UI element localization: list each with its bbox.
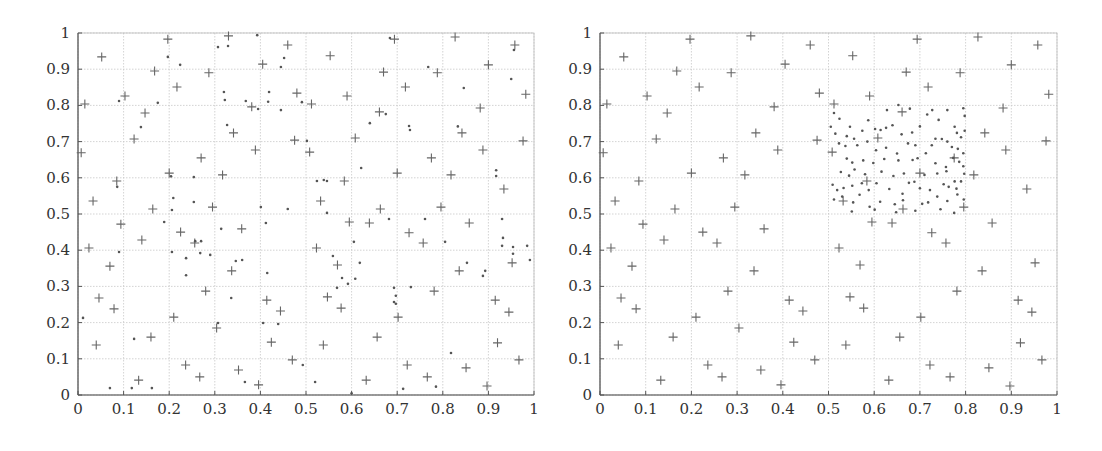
- plus-marker-icon: [430, 287, 439, 296]
- dot-marker-icon: [171, 251, 174, 254]
- y-tick-label: 0.4: [568, 241, 592, 259]
- plus-marker-icon: [988, 219, 997, 228]
- dot-marker-icon: [936, 195, 939, 198]
- dot-marker-icon: [909, 107, 912, 110]
- dot-marker-icon: [241, 259, 244, 262]
- plus-marker-icon: [751, 128, 760, 137]
- dot-marker-icon: [945, 166, 948, 169]
- dot-marker-icon: [934, 162, 937, 165]
- dot-marker-icon: [853, 137, 856, 140]
- dot-marker-icon: [868, 205, 871, 208]
- plus-marker-icon: [508, 258, 517, 267]
- dot-marker-icon: [931, 109, 934, 112]
- dot-marker-icon: [116, 186, 119, 189]
- plus-marker-icon: [634, 177, 643, 186]
- dot-marker-icon: [962, 165, 965, 168]
- plus-marker-icon: [112, 177, 121, 186]
- plus-marker-icon: [436, 203, 445, 212]
- x-tick-label: 0.8: [431, 400, 455, 418]
- dot-marker-icon: [925, 152, 928, 155]
- dot-marker-icon: [526, 245, 529, 248]
- dot-marker-icon: [314, 381, 317, 384]
- plus-marker-icon: [727, 68, 736, 77]
- plus-marker-icon: [204, 68, 213, 77]
- x-tick-label: 0.4: [771, 400, 795, 418]
- plus-marker-icon: [687, 169, 696, 178]
- plus-marker-icon: [493, 338, 502, 347]
- plus-marker-icon: [457, 128, 466, 137]
- plus-marker-icon: [691, 313, 700, 322]
- plus-marker-icon: [267, 338, 276, 347]
- plus-marker-icon: [229, 128, 238, 137]
- plus-marker-icon: [476, 103, 485, 112]
- dot-marker-icon: [829, 125, 832, 128]
- plus-marker-icon: [365, 219, 374, 228]
- plus-marker-icon: [514, 355, 523, 364]
- dot-marker-icon: [301, 101, 304, 104]
- plus-marker-icon: [898, 204, 907, 213]
- dot-marker-icon: [848, 174, 851, 177]
- plus-marker-icon: [859, 304, 868, 313]
- plus-marker-icon: [619, 52, 628, 61]
- dot-marker-icon: [495, 175, 498, 178]
- dot-marker-icon: [914, 144, 917, 147]
- dot-marker-icon: [424, 218, 427, 221]
- dot-marker-icon: [885, 146, 888, 149]
- plus-marker-icon: [915, 169, 924, 178]
- y-tick-label: 0.9: [568, 60, 592, 78]
- dot-marker-icon: [267, 100, 270, 103]
- y-tick-label: 0.5: [568, 205, 592, 223]
- dot-marker-icon: [864, 173, 867, 176]
- plus-marker-icon: [403, 360, 412, 369]
- plus-marker-icon: [1037, 355, 1046, 364]
- data-points: [599, 31, 1054, 390]
- dot-marker-icon: [952, 157, 955, 160]
- x-tick-label: 0.8: [954, 400, 978, 418]
- plus-marker-icon: [208, 203, 217, 212]
- plus-marker-icon: [148, 204, 157, 213]
- plus-marker-icon: [865, 91, 874, 100]
- dot-marker-icon: [937, 119, 940, 122]
- dot-marker-icon: [962, 152, 965, 155]
- plus-marker-icon: [405, 228, 414, 237]
- plus-marker-icon: [283, 40, 292, 49]
- plus-marker-icon: [120, 91, 129, 100]
- dot-marker-icon: [341, 277, 344, 280]
- dot-marker-icon: [951, 146, 954, 149]
- dot-marker-icon: [131, 387, 134, 390]
- dot-marker-icon: [280, 66, 283, 69]
- plus-marker-icon: [137, 236, 146, 245]
- dot-marker-icon: [900, 133, 903, 136]
- dot-marker-icon: [888, 188, 891, 191]
- dot-marker-icon: [883, 158, 886, 161]
- plus-marker-icon: [810, 355, 819, 364]
- plus-marker-icon: [663, 109, 672, 118]
- plus-marker-icon: [828, 148, 837, 157]
- dot-marker-icon: [435, 385, 438, 388]
- dot-marker-icon: [513, 49, 516, 52]
- charts-canvas: 000.10.10.20.20.30.30.40.40.50.50.60.60.…: [0, 0, 1102, 451]
- plus-marker-icon: [234, 366, 243, 375]
- plus-marker-icon: [841, 341, 850, 350]
- dot-marker-icon: [903, 172, 906, 175]
- dot-marker-icon: [853, 168, 856, 171]
- dot-marker-icon: [402, 388, 405, 391]
- plus-marker-icon: [163, 35, 172, 44]
- dot-marker-icon: [109, 387, 112, 390]
- dot-marker-icon: [286, 208, 289, 211]
- x-tick-label: 0.1: [634, 400, 658, 418]
- plus-marker-icon: [686, 35, 695, 44]
- dot-marker-icon: [874, 128, 877, 131]
- plus-marker-icon: [1031, 258, 1040, 267]
- dot-marker-icon: [962, 198, 965, 201]
- dot-marker-icon: [306, 140, 309, 143]
- grid-lines: [78, 33, 534, 395]
- plus-marker-icon: [169, 313, 178, 322]
- plus-marker-icon: [781, 60, 790, 69]
- plus-marker-icon: [789, 338, 798, 347]
- plus-marker-icon: [1042, 136, 1051, 145]
- plus-marker-icon: [212, 324, 221, 333]
- dot-marker-icon: [941, 138, 944, 141]
- dot-marker-icon: [151, 387, 154, 390]
- dot-marker-icon: [902, 199, 905, 202]
